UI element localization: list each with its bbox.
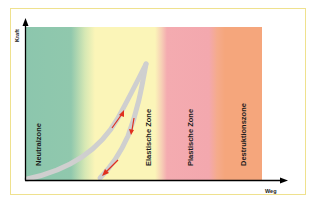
y-axis-label: Kraft — [14, 29, 20, 42]
zone-label-plastic: Plastische Zone — [186, 109, 195, 166]
diagram-graphics — [0, 0, 318, 206]
zone-label-neutral: Neutralzone — [34, 123, 43, 166]
y-axis-arrow-icon — [23, 18, 29, 26]
x-axis-label: Weg — [265, 188, 277, 194]
loading-arrow-icon — [112, 110, 124, 128]
return-arrow-icon — [102, 160, 118, 176]
y-axis — [23, 18, 29, 181]
force-displacement-curve — [27, 64, 146, 179]
zone-label-elastic: Elastische Zone — [144, 109, 153, 166]
x-axis — [25, 178, 288, 184]
x-axis-arrow-icon — [280, 178, 288, 184]
zone-label-destruction: Destruktionszone — [239, 103, 248, 166]
